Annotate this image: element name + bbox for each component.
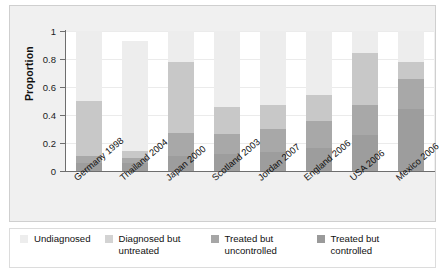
- bar-segment: [214, 134, 240, 154]
- bar-segment: [214, 31, 240, 107]
- bar-usa-2006[interactable]: [352, 31, 378, 171]
- bar-segment: [352, 105, 378, 135]
- bar-segment: [398, 62, 424, 80]
- legend-label: Diagnosed but untreated: [119, 233, 197, 256]
- bar-segment: [76, 101, 102, 156]
- legend-label: Undiagnosed: [34, 233, 91, 245]
- y-tick-mark: [60, 115, 65, 116]
- bar-jordan-2007[interactable]: [260, 31, 286, 171]
- y-axis-line: [65, 30, 66, 172]
- bar-segment: [168, 31, 194, 62]
- legend-swatch-icon: [211, 235, 219, 243]
- bar-segment: [260, 105, 286, 130]
- bar-segment: [306, 31, 332, 95]
- legend-item[interactable]: Treated but controlled: [317, 233, 409, 256]
- legend-label: Treated but uncontrolled: [225, 233, 303, 256]
- bar-segment: [352, 53, 378, 105]
- legend-item[interactable]: Undiagnosed: [20, 233, 91, 245]
- bar-mexico-2006[interactable]: [398, 31, 424, 171]
- bar-segment: [214, 107, 240, 134]
- legend-label: Treated but controlled: [331, 233, 409, 256]
- bar-segment: [122, 41, 148, 152]
- y-tick-label: 0: [51, 166, 56, 177]
- y-tick-mark: [60, 143, 65, 144]
- stacked-bar-chart-figure: 00.20.40.60.81 Germany 1998Thailand 2004…: [0, 0, 445, 276]
- chart-legend: UndiagnosedDiagnosed but untreatedTreate…: [9, 228, 436, 268]
- y-tick-mark: [60, 87, 65, 88]
- legend-item[interactable]: Treated but uncontrolled: [211, 233, 303, 256]
- bar-scotland-2003[interactable]: [214, 31, 240, 171]
- bar-segment: [398, 31, 424, 62]
- bar-segment: [352, 31, 378, 53]
- bar-segment: [260, 31, 286, 105]
- bar-segment: [398, 79, 424, 109]
- y-tick-label: 0.2: [43, 138, 56, 149]
- bar-germany-1998[interactable]: [76, 31, 102, 171]
- y-tick-mark: [60, 31, 65, 32]
- y-tick-mark: [60, 171, 65, 172]
- bar-segment: [76, 31, 102, 101]
- y-axis-title: Proportion: [23, 46, 35, 101]
- chart-panel: 00.20.40.60.81 Germany 1998Thailand 2004…: [9, 5, 436, 222]
- bar-japan-2000[interactable]: [168, 31, 194, 171]
- y-tick-label: 0.4: [43, 110, 56, 121]
- legend-item[interactable]: Diagnosed but untreated: [105, 233, 197, 256]
- legend-swatch-icon: [105, 235, 113, 243]
- bar-segment: [168, 62, 194, 133]
- bar-segment: [306, 121, 332, 148]
- y-tick-label: 0.8: [43, 54, 56, 65]
- bar-segment: [260, 129, 286, 152]
- legend-swatch-icon: [317, 235, 325, 243]
- bar-england-2006[interactable]: [306, 31, 332, 171]
- bar-segment: [306, 95, 332, 120]
- y-tick-label: 0.6: [43, 82, 56, 93]
- y-tick-label: 1: [51, 26, 56, 37]
- legend-swatch-icon: [20, 235, 28, 243]
- gridline: [66, 31, 434, 32]
- y-tick-mark: [60, 59, 65, 60]
